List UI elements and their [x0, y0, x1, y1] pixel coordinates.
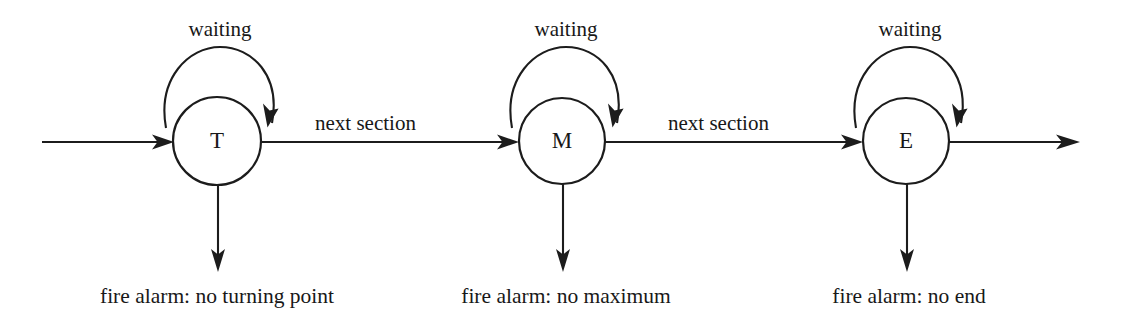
state-node-T[interactable]: T — [173, 97, 261, 185]
transition-E-to-exit — [949, 135, 1080, 150]
transition-start-to-T — [42, 135, 174, 150]
self-loop-arrow-head-icon-T — [263, 104, 279, 128]
edge-label-M-E: next section — [668, 111, 769, 135]
state-label-M: M — [552, 128, 572, 153]
state-node-E[interactable]: E — [863, 98, 949, 184]
self-loop-label-M: waiting — [535, 17, 598, 41]
edge-label-T-M: next section — [315, 111, 416, 135]
self-loop-label-T: waiting — [189, 17, 252, 41]
alarm-label-T: fire alarm: no turning point — [100, 284, 334, 308]
state-label-E: E — [899, 128, 913, 153]
alarm-transition-T — [211, 185, 225, 272]
alarm-transition-E — [900, 184, 914, 272]
state-node-M[interactable]: M — [519, 98, 605, 184]
self-loop-arrow-head-icon-M — [608, 104, 624, 128]
alarm-transition-M — [556, 184, 570, 272]
transition-M-to-E — [605, 135, 863, 150]
transition-T-to-M — [261, 135, 519, 150]
self-loop-label-E: waiting — [879, 17, 942, 41]
alarm-label-E: fire alarm: no end — [832, 284, 986, 308]
alarm-label-M: fire alarm: no maximum — [461, 284, 671, 308]
diagram-canvas: T waiting fire alarm: no turning point n… — [0, 0, 1124, 322]
state-label-T: T — [210, 128, 224, 153]
state-machine-diagram: T waiting fire alarm: no turning point n… — [0, 0, 1124, 322]
self-loop-arrow-head-icon-E — [952, 104, 968, 128]
